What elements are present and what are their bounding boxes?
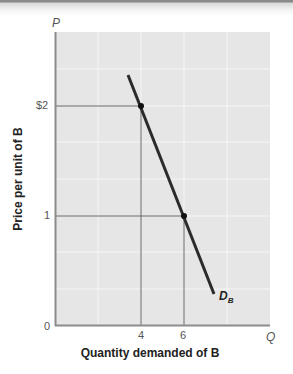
- y-tick-2: $2: [36, 99, 48, 111]
- demand-label: DB: [219, 289, 233, 305]
- y-tick-1: 1: [44, 209, 50, 221]
- x-tick-6: 6: [180, 329, 186, 341]
- x-axis-var: Q: [266, 330, 275, 344]
- chart-canvas: [0, 0, 293, 374]
- point-4-2: [138, 103, 144, 109]
- y-axis-label: Price per unit of B: [11, 109, 25, 249]
- y-axis-var: P: [52, 16, 60, 30]
- x-tick-4: 4: [138, 329, 144, 341]
- x-axis-label: Quantity demanded of B: [50, 346, 250, 360]
- point-6-1: [181, 213, 187, 219]
- origin-label: 0: [44, 320, 50, 332]
